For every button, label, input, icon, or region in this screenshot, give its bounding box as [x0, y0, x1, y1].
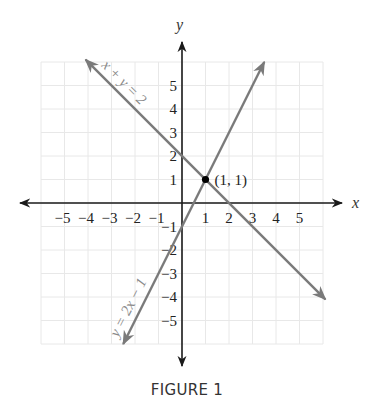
x-tick-label: 2 [225, 210, 233, 226]
x-tick-label: 4 [272, 210, 280, 226]
x-tick-label: −5 [55, 210, 71, 226]
figure: xy −5−4−3−2−11234554321−1−2−3−4−5 x + y … [0, 0, 374, 419]
intersection-point-label: (1, 1) [215, 172, 248, 189]
x-tick-label: −4 [78, 210, 94, 226]
x-tick-label: 5 [296, 210, 304, 226]
y-tick-label: 4 [170, 101, 178, 117]
y-tick-label: −3 [161, 266, 177, 282]
y-tick-label: −1 [161, 219, 177, 235]
y-tick-label: 1 [170, 172, 178, 188]
equation-label-x-plus-y: x + y = 2 [98, 56, 150, 108]
x-tick-label: −2 [125, 210, 141, 226]
y-axis-label: y [174, 16, 184, 34]
y-tick-label: −5 [161, 313, 177, 329]
x-tick-label: −3 [102, 210, 118, 226]
intersection-point [202, 176, 209, 183]
figure-caption: FIGURE 1 [0, 381, 374, 399]
x-tick-label: 1 [202, 210, 210, 226]
y-tick-label: −4 [161, 289, 177, 305]
x-axis-label: x [351, 194, 359, 211]
coordinate-plot: xy −5−4−3−2−11234554321−1−2−3−4−5 x + y … [0, 0, 374, 419]
axes: xy [20, 16, 359, 366]
equation-label-y-2x-1: y = 2x − 1 [106, 275, 150, 341]
y-tick-label: 5 [170, 78, 178, 94]
y-tick-label: 3 [170, 125, 178, 141]
